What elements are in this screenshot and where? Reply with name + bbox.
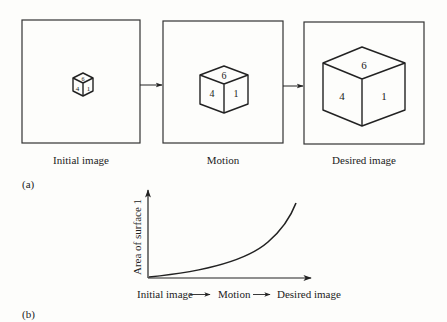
caption-initial-image: Initial image bbox=[53, 154, 109, 166]
x-step-initial: Initial image bbox=[137, 288, 193, 300]
face-right-label: 1 bbox=[381, 90, 387, 102]
chart-area-vs-progress: Area of surface 1 Initial image Motion D… bbox=[131, 190, 341, 300]
panel-a-label: (a) bbox=[22, 178, 35, 191]
frame-desired-image: 6 4 1 Desired image bbox=[304, 22, 424, 166]
y-axis-label: Area of surface 1 bbox=[131, 199, 143, 275]
face-right-label: 1 bbox=[234, 88, 239, 99]
face-left-label: 4 bbox=[76, 85, 80, 93]
face-right-label: 1 bbox=[87, 85, 91, 93]
face-top-label: 6 bbox=[222, 70, 227, 81]
face-top-label: 6 bbox=[361, 59, 367, 71]
frame-motion: 6 4 1 Motion bbox=[163, 21, 283, 166]
face-left-label: 4 bbox=[210, 88, 215, 99]
face-left-label: 4 bbox=[339, 90, 345, 102]
figure: 6 4 1 Initial image 6 4 1 Motion 6 4 1 D… bbox=[0, 0, 447, 322]
frame-initial-image: 6 4 1 Initial image bbox=[22, 20, 140, 166]
area-curve bbox=[149, 203, 296, 277]
caption-motion: Motion bbox=[207, 154, 240, 166]
face-top-label: 6 bbox=[82, 76, 85, 82]
caption-desired-image: Desired image bbox=[332, 154, 396, 166]
panel-b-label: (b) bbox=[22, 308, 35, 321]
x-step-motion: Motion bbox=[218, 288, 251, 300]
x-step-desired: Desired image bbox=[277, 288, 341, 300]
